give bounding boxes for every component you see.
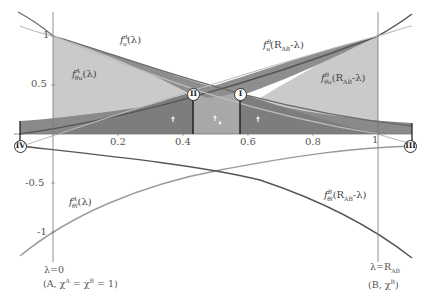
annotation-state-B: (B, χB) [368, 278, 399, 290]
annotation-lambda-zero: λ=0 [44, 264, 64, 275]
y-tick-neg-1: -1 [37, 226, 47, 237]
x-tick-0.8: 0.8 [305, 136, 321, 147]
annotation-lambda-RAB: λ=RAB [370, 261, 400, 274]
label-fA-u: fAu(λ) [120, 33, 141, 47]
marker-IV: IV [14, 140, 27, 153]
label-fB-u: fBu(RAB-λ) [263, 38, 304, 52]
x-tick-1: 1 [372, 134, 378, 145]
label-fB-theta-u: fBθu(RAB-λ) [321, 71, 365, 85]
marker-I: I [234, 88, 247, 101]
x-tick-0.6: 0.6 [240, 136, 256, 147]
annotation-state-A: (A, χA = χB = 1) [43, 277, 118, 289]
y-tick-neg-0.5: -0.5 [25, 177, 44, 188]
x-tick-0.4: 0.4 [175, 136, 191, 147]
dot-icon [219, 122, 222, 125]
x-tick-0.2: 0.2 [110, 136, 126, 147]
label-fB-theta-l: fBθl(RAB-λ) [324, 188, 366, 202]
y-tick-0.5: 0.5 [31, 78, 47, 89]
region-middle [193, 92, 240, 134]
marker-III: III [404, 140, 417, 153]
label-fA-theta-u: fAθu(λ) [72, 67, 97, 81]
label-fA-theta-l: fAθl(λ) [69, 195, 92, 209]
y-tick-1: 1 [43, 29, 49, 40]
marker-II: II [187, 88, 200, 101]
diagram-canvas [0, 0, 421, 293]
